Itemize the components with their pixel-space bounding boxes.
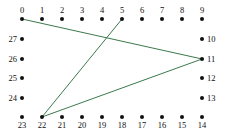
graph-edge — [22, 19, 202, 59]
graph-node — [160, 115, 164, 119]
graph-node — [200, 37, 204, 41]
graph-node-label: 17 — [138, 121, 147, 130]
graph-node-label: 21 — [58, 121, 67, 130]
graph-node-label: 14 — [198, 121, 207, 130]
graph-node-label: 6 — [140, 6, 144, 15]
graph-node-label: 27 — [9, 35, 18, 44]
graph-node — [200, 57, 204, 61]
graph-node-label: 12 — [207, 74, 216, 83]
graph-node-label: 1 — [40, 6, 44, 15]
graph-node-label: 11 — [207, 55, 215, 64]
graph-node-label: 19 — [98, 121, 107, 130]
graph-node — [200, 96, 204, 100]
graph-node-label: 8 — [180, 6, 184, 15]
graph-node — [20, 37, 24, 41]
graph-node — [120, 115, 124, 119]
graph-node — [40, 115, 44, 119]
graph-node-label: 7 — [160, 6, 164, 15]
graph-node-label: 4 — [100, 6, 104, 15]
graph-node-label: 0 — [20, 6, 24, 15]
graph-node — [80, 17, 84, 21]
graph-node — [100, 17, 104, 21]
graph-node-label: 9 — [200, 6, 204, 15]
graph-node-label: 23 — [18, 121, 27, 130]
graph-node — [140, 115, 144, 119]
graph-node — [40, 17, 44, 21]
graph-node-label: 16 — [158, 121, 167, 130]
graph-node — [20, 76, 24, 80]
graph-node — [60, 17, 64, 21]
graph-edge — [42, 59, 202, 117]
edge-layer — [0, 0, 229, 137]
graph-node — [180, 115, 184, 119]
graph-node — [20, 96, 24, 100]
graph-node — [180, 17, 184, 21]
graph-node-label: 18 — [118, 121, 127, 130]
graph-node-label: 25 — [9, 74, 18, 83]
graph-node-label: 2 — [60, 6, 64, 15]
graph-node — [80, 115, 84, 119]
graph-node-label: 3 — [80, 6, 84, 15]
graph-node — [200, 76, 204, 80]
graph-node — [200, 115, 204, 119]
graph-node — [120, 17, 124, 21]
graph-node-label: 20 — [78, 121, 87, 130]
graph-node-label: 22 — [38, 121, 47, 130]
graph-node-label: 10 — [207, 35, 216, 44]
graph-node-label: 13 — [207, 94, 216, 103]
graph-node-label: 5 — [120, 6, 124, 15]
graph-figure: 0123456789101112131415161718192021222324… — [0, 0, 229, 137]
graph-node-label: 24 — [9, 94, 18, 103]
graph-node — [100, 115, 104, 119]
graph-node — [60, 115, 64, 119]
graph-edge — [42, 19, 122, 117]
graph-node-label: 15 — [178, 121, 187, 130]
graph-node — [20, 17, 24, 21]
graph-node — [200, 17, 204, 21]
graph-node — [20, 115, 24, 119]
graph-node-label: 26 — [9, 55, 18, 64]
graph-node — [20, 57, 24, 61]
graph-node — [160, 17, 164, 21]
graph-node — [140, 17, 144, 21]
